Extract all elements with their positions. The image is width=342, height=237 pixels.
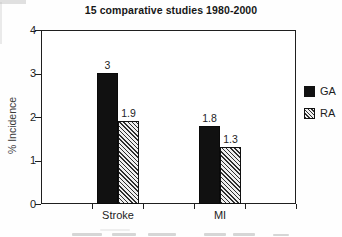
bar-chart-figure: 15 comparative studies 1980-2000 % Incid… xyxy=(0,0,342,237)
y-tick-label: 3 xyxy=(16,67,36,80)
legend-label-ga: GA xyxy=(320,85,336,97)
y-tick-label: 1 xyxy=(16,154,36,167)
diagonal-hatch-swatch-icon xyxy=(304,108,315,119)
solid-black-swatch-icon xyxy=(304,86,315,97)
legend-label-ra: RA xyxy=(320,107,335,119)
plot-overlay: 4321031.91.81.3 xyxy=(0,0,342,237)
x-tick-mark xyxy=(296,204,297,209)
bar-value-label-ra-mi: 1.3 xyxy=(216,133,246,145)
bar-ga-stroke xyxy=(97,73,118,204)
bar-ra-mi xyxy=(220,147,241,204)
cropped-caption-artifact xyxy=(112,233,136,236)
y-tick-label: 0 xyxy=(16,198,36,211)
cropped-caption-artifact xyxy=(273,234,289,236)
cropped-caption-artifact xyxy=(72,233,102,236)
bar-ra-stroke xyxy=(118,121,139,204)
cropped-caption-artifact xyxy=(148,233,176,236)
legend-item-ga: GA xyxy=(304,85,336,97)
legend-item-ra: RA xyxy=(304,107,335,119)
x-category-label-mi: MI xyxy=(185,209,255,221)
x-category-label-stroke: Stroke xyxy=(83,209,153,221)
bar-value-label-ga-mi: 1.8 xyxy=(195,112,225,124)
cropped-caption-artifact xyxy=(100,229,130,231)
bar-value-label-ra-stroke: 1.9 xyxy=(114,107,144,119)
y-tick-label: 2 xyxy=(16,111,36,124)
cropped-caption-artifact xyxy=(233,233,255,236)
bar-value-label-ga-stroke: 3 xyxy=(93,59,123,71)
cropped-caption-artifact xyxy=(204,233,226,236)
y-tick-label: 4 xyxy=(16,24,36,37)
